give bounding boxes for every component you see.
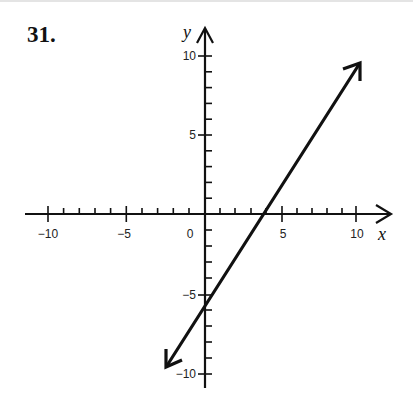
x-axis: −10 −5 0 5 10 x <box>25 205 391 244</box>
x-tick-label: 0 <box>187 227 194 241</box>
x-tick-label: 10 <box>350 227 364 241</box>
x-axis-label: x <box>377 224 386 244</box>
y-axis-label: y <box>181 22 191 42</box>
x-tick-label: −10 <box>38 227 59 241</box>
y-tick-label: −5 <box>182 288 196 302</box>
y-tick-label: 10 <box>183 49 197 63</box>
coordinate-plane: −10 −5 0 5 10 x <box>0 0 413 413</box>
x-tick-label: −5 <box>117 227 131 241</box>
y-axis: 10 5 −5 −10 y <box>176 22 213 388</box>
y-tick-label: 5 <box>189 128 196 142</box>
y-tick-label: −10 <box>176 367 197 381</box>
x-tick-label: 5 <box>280 227 287 241</box>
